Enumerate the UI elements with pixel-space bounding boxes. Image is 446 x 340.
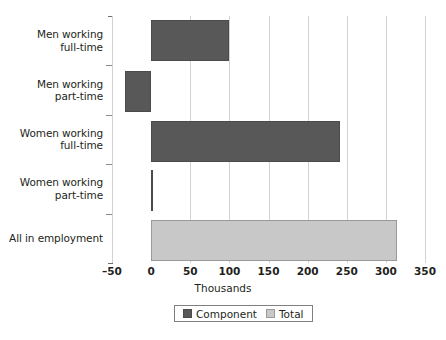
bar-men-full-time	[151, 20, 229, 61]
y-axis-label-men-part-time: Men working part-time	[0, 65, 108, 114]
legend-label-component: Component	[196, 308, 257, 320]
legend-swatch-component-icon	[183, 309, 192, 318]
y-axis-label-women-part-time: Women working part-time	[0, 164, 108, 213]
x-axis-title: Thousands	[0, 282, 446, 294]
legend-swatch-total-icon	[266, 309, 275, 318]
gridline-350	[425, 16, 426, 263]
legend-label-total: Total	[279, 308, 304, 320]
y-axis-category-labels: Men working full-time Men working part-t…	[0, 16, 108, 263]
y-axis-label-line-2: part-time	[0, 90, 103, 103]
y-axis-label-line-1: All in employment	[0, 232, 103, 245]
y-axis-label-women-full-time: Women working full-time	[0, 115, 108, 164]
y-axis-label-line-2: full-time	[0, 41, 103, 54]
bar-women-part-time	[151, 170, 153, 211]
y-axis-label-line-2: full-time	[0, 139, 103, 152]
bar-all-in-employment	[151, 220, 397, 261]
y-axis-label-men-full-time: Men working full-time	[0, 16, 108, 65]
y-axis-label-line-1: Women working	[0, 127, 103, 140]
x-tick-label-300: 300	[375, 265, 397, 277]
gridline--50	[112, 16, 113, 263]
plot-area	[112, 16, 425, 263]
x-tick-label-100: 100	[218, 265, 240, 277]
x-tick-label-0: 0	[147, 265, 154, 277]
x-tick-label-200: 200	[297, 265, 319, 277]
bar-women-full-time	[151, 121, 340, 162]
x-tick-label-250: 250	[336, 265, 358, 277]
x-tick-label--50: –50	[102, 265, 122, 277]
bar-men-part-time	[125, 71, 151, 112]
y-axis-label-line-2: part-time	[0, 189, 103, 202]
x-tick-label-150: 150	[258, 265, 280, 277]
legend-item-component: Component	[183, 308, 257, 320]
y-axis-label-line-1: Men working	[0, 28, 103, 41]
x-tick-label-350: 350	[414, 265, 436, 277]
x-axis-tick-labels: –50 0 50 100 150 200 250 300 350	[0, 265, 446, 279]
page-caption-strip	[0, 330, 446, 340]
bar-chart: Men working full-time Men working part-t…	[0, 0, 446, 340]
y-axis-label-line-1: Men working	[0, 78, 103, 91]
y-axis-cap-bottom	[108, 263, 113, 264]
chart-legend: Component Total	[174, 305, 313, 322]
legend-item-total: Total	[266, 308, 304, 320]
y-axis-label-line-1: Women working	[0, 176, 103, 189]
y-axis-label-all-in-employment: All in employment	[0, 214, 108, 263]
x-tick-label-50: 50	[183, 265, 198, 277]
